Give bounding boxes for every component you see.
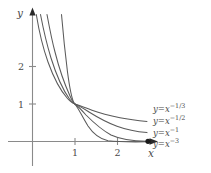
series-label-x-neg-1-3: y=x−1/3 xyxy=(153,105,185,114)
curves-group xyxy=(36,15,147,142)
x-tick-label-2: 2 xyxy=(114,147,120,158)
tick-marks-group xyxy=(29,67,118,146)
axis-text-group: y x 2 1 1 2 xyxy=(16,7,154,159)
curve-end-markers xyxy=(145,139,150,144)
power-function-graph-figure: y x 2 1 1 2 y=x−1/3 y=x−1/2 y=x−1 y=x−3 xyxy=(0,0,211,173)
curve-x-neg-1-2 xyxy=(41,15,148,133)
series-label-eq: = xyxy=(158,128,165,138)
series-label-exponent: −1/2 xyxy=(170,114,186,122)
curve-x-neg-1 xyxy=(47,15,147,142)
series-label-exponent: −3 xyxy=(170,137,179,145)
y-axis-label: y xyxy=(16,7,24,19)
series-label-eq: = xyxy=(158,104,165,114)
series-label-exponent: −1 xyxy=(170,126,179,134)
series-label-eq: = xyxy=(158,139,165,149)
y-axis-arrow-icon xyxy=(29,8,35,16)
y-tick-label-2: 2 xyxy=(18,61,24,72)
series-label-x-neg-1-2: y=x−1/2 xyxy=(153,117,185,126)
series-label-x-neg-3: y=x−3 xyxy=(153,140,179,149)
series-label-eq: = xyxy=(158,116,165,126)
curve-x-neg-1-3 xyxy=(36,15,147,122)
y-tick-label-1: 1 xyxy=(18,99,24,110)
curve-x-neg-3 xyxy=(62,15,148,142)
x-tick-label-1: 1 xyxy=(72,147,78,158)
curve-endpoint-dot xyxy=(145,139,150,144)
series-label-exponent: −1/3 xyxy=(170,102,186,110)
chart-canvas: y x 2 1 1 2 xyxy=(0,0,211,173)
